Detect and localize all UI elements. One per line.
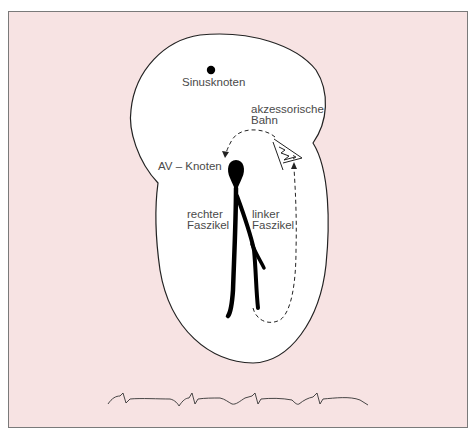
- right-bundle-label-line2: Faszikel: [187, 219, 229, 232]
- heart-diagram: [0, 0, 476, 438]
- sinus-node-label: Sinusknoten: [182, 76, 245, 89]
- left-bundle-label-line2: Faszikel: [252, 219, 294, 232]
- sinus-node: [207, 66, 215, 74]
- ecg-trace: [108, 393, 368, 406]
- av-node-label: AV – Knoten: [158, 160, 222, 173]
- accessory-pathway-label-line2: Bahn: [251, 114, 278, 127]
